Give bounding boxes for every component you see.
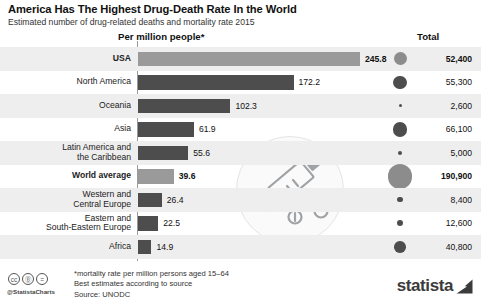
total-bubble-cell [386, 47, 414, 71]
total-bubble-8 [394, 241, 406, 253]
row-label-3: Asia [5, 118, 135, 142]
bar-5 [138, 169, 174, 184]
row-label-4: Latin America andthe Caribbean [5, 141, 135, 165]
total-value-6: 8,400 [414, 188, 472, 212]
row-label-line: Central Europe [73, 200, 131, 210]
bar-3 [138, 122, 194, 137]
source-line: Source: UNODC [74, 290, 229, 300]
bar-value-0: 245.8 [365, 47, 387, 71]
total-bubble-3 [393, 122, 408, 137]
total-bubble-cell [386, 118, 414, 142]
table-row: Asia61.966,100 [0, 118, 481, 142]
total-value-1: 55,300 [414, 71, 472, 95]
table-row: Eastern andSouth-Eastern Europe22.512,60… [0, 212, 481, 236]
bar-2 [138, 99, 230, 114]
row-label-line: the Caribbean [77, 153, 131, 163]
total-value-3: 66,100 [414, 118, 472, 142]
total-bubble-7 [397, 220, 403, 226]
statista-mark-icon [456, 279, 473, 294]
total-bubble-cell [386, 94, 414, 118]
chart-header: America Has The Highest Drug-Death Rate … [8, 3, 478, 28]
total-bubble-cell [386, 165, 414, 189]
total-value-7: 12,600 [414, 212, 472, 236]
table-row: Oceania102.32,600 [0, 94, 481, 118]
bar-value-1: 172.2 [299, 71, 321, 95]
row-label-line: South-Eastern Europe [46, 223, 131, 233]
footnote-mortality-rate: *mortality rate per million persons aged… [74, 269, 229, 279]
bar-value-6: 26.4 [167, 188, 184, 212]
bar-value-8: 14.9 [156, 235, 173, 259]
row-label-1: North America [5, 71, 135, 95]
table-row: Latin America andthe Caribbean55.65,000 [0, 141, 481, 165]
table-row: Western andCentral Europe26.48,400 [0, 188, 481, 212]
total-column-header: Total [417, 31, 439, 42]
statista-infographic: America Has The Highest Drug-Death Rate … [0, 0, 481, 307]
page-subtitle: Estimated number of drug-related deaths … [8, 17, 478, 28]
row-label-line: Oceania [99, 101, 131, 111]
total-value-8: 40,800 [414, 235, 472, 259]
page-title: America Has The Highest Drug-Death Rate … [8, 3, 478, 16]
table-row: North America172.255,300 [0, 71, 481, 95]
bar-value-2: 102.3 [235, 94, 257, 118]
bar-1 [138, 75, 294, 90]
total-bubble-cell [386, 235, 414, 259]
statista-charts-handle: @StatistaCharts [7, 288, 55, 295]
total-bubble-6 [397, 197, 402, 202]
total-bubble-cell [386, 141, 414, 165]
bar-value-5: 39.6 [179, 165, 196, 189]
row-label-5: World average [5, 165, 135, 189]
total-bubble-cell [386, 212, 414, 236]
cc-icon: cc [8, 273, 20, 285]
bar-value-3: 61.9 [199, 118, 216, 142]
bar-0 [138, 52, 360, 67]
row-label-line: North America [77, 77, 131, 87]
footnotes: *mortality rate per million persons aged… [74, 269, 229, 300]
bars-column-header: Per million people* [118, 31, 204, 42]
row-label-8: Africa [5, 235, 135, 259]
bar-7 [138, 216, 158, 231]
total-value-4: 5,000 [414, 141, 472, 165]
total-bubble-0 [394, 52, 407, 65]
total-bubble-4 [398, 151, 402, 155]
bar-value-7: 22.5 [163, 212, 180, 236]
row-label-line: Africa [109, 242, 131, 252]
bar-value-4: 55.6 [193, 141, 210, 165]
chart-rows: USA245.852,400North America172.255,300Oc… [0, 47, 481, 260]
total-value-2: 2,600 [414, 94, 472, 118]
row-label-line: Asia [114, 124, 131, 134]
total-value-0: 52,400 [414, 47, 472, 71]
total-bubble-1 [393, 76, 406, 89]
table-row: Africa14.940,800 [0, 235, 481, 259]
total-bubble-5 [388, 164, 413, 189]
total-bubble-cell [386, 71, 414, 95]
cc-nd-icon: = [36, 273, 48, 285]
row-label-7: Eastern andSouth-Eastern Europe [5, 212, 135, 236]
row-label-line: USA [113, 54, 131, 64]
row-label-2: Oceania [5, 94, 135, 118]
statista-wordmark: statista [397, 276, 453, 296]
footnote-estimates: Best estimates according to source [74, 279, 229, 289]
total-bubble-cell [386, 188, 414, 212]
creative-commons-icons: cc Ⓑ = [8, 273, 48, 285]
row-label-0: USA [5, 47, 135, 71]
total-value-5: 190,900 [414, 165, 472, 189]
row-label-line: World average [72, 171, 131, 181]
table-row: World average39.6190,900 [0, 165, 481, 189]
cc-by-icon: Ⓑ [22, 273, 34, 285]
bar-4 [138, 146, 188, 161]
total-bubble-2 [399, 104, 402, 107]
table-row: USA245.852,400 [0, 47, 481, 71]
bar-8 [138, 240, 151, 255]
row-label-6: Western andCentral Europe [5, 188, 135, 212]
statista-logo: statista [397, 276, 473, 296]
bar-6 [138, 193, 162, 208]
chart-footer: cc Ⓑ = @StatistaCharts *mortality rate p… [0, 262, 481, 307]
